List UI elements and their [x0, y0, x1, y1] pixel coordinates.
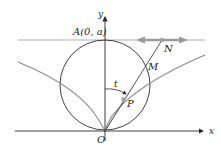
label-M: M — [147, 61, 159, 72]
label-A: A(0, a) — [72, 26, 107, 37]
label-origin: O — [97, 134, 105, 145]
point-N — [160, 38, 164, 42]
label-y-axis: y — [97, 9, 104, 19]
point-P — [122, 98, 126, 102]
label-angle-t: t — [114, 79, 118, 89]
cissoid-diagram: A(0, a) y x O N M P t — [0, 0, 221, 151]
angle-t-arc — [105, 89, 126, 94]
label-P: P — [126, 98, 134, 109]
label-x-axis: x — [209, 126, 214, 136]
cissoid-curve — [18, 55, 205, 131]
line-OP — [105, 100, 124, 131]
label-N: N — [163, 43, 174, 54]
